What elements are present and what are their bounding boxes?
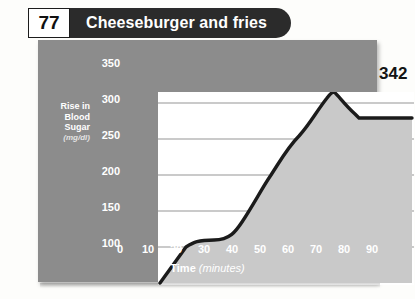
y-tick-350: 350 xyxy=(102,57,120,69)
x-axis-caption: Time (minutes) xyxy=(38,262,377,274)
x-tick-0: 0 xyxy=(117,243,123,255)
figure-number-box: 77 xyxy=(28,8,70,38)
y-tick-150: 150 xyxy=(102,201,120,213)
chart-panel: Rise in Blood Sugar (mg/dl) 350 300 250 … xyxy=(38,40,377,282)
figure-header: 77 Cheeseburger and fries xyxy=(28,8,291,38)
x-tick-20: 20 xyxy=(170,243,182,255)
x-tick-30: 30 xyxy=(198,243,210,255)
x-tick-90: 90 xyxy=(366,243,378,255)
end-value-label: 342 xyxy=(379,64,407,84)
x-tick-40: 40 xyxy=(226,243,238,255)
y-tick-200: 200 xyxy=(102,165,120,177)
x-tick-60: 60 xyxy=(282,243,294,255)
y-tick-300: 300 xyxy=(102,93,120,105)
x-tick-70: 70 xyxy=(310,243,322,255)
x-axis-tick-labels: 0 10 20 30 40 50 60 70 80 90 xyxy=(38,243,377,259)
figure-title-banner: Cheeseburger and fries xyxy=(70,8,291,38)
x-axis-caption-unit: (minutes) xyxy=(199,262,245,274)
x-tick-10: 10 xyxy=(142,243,154,255)
x-tick-80: 80 xyxy=(338,243,350,255)
y-tick-250: 250 xyxy=(102,129,120,141)
figure-page: 77 Cheeseburger and fries Rise in Blood … xyxy=(0,0,415,299)
panel-drop-shadow xyxy=(40,283,380,288)
x-axis-caption-text: Time xyxy=(170,262,195,274)
x-tick-50: 50 xyxy=(254,243,266,255)
y-axis-tick-labels: 350 300 250 200 150 100 xyxy=(75,40,120,270)
